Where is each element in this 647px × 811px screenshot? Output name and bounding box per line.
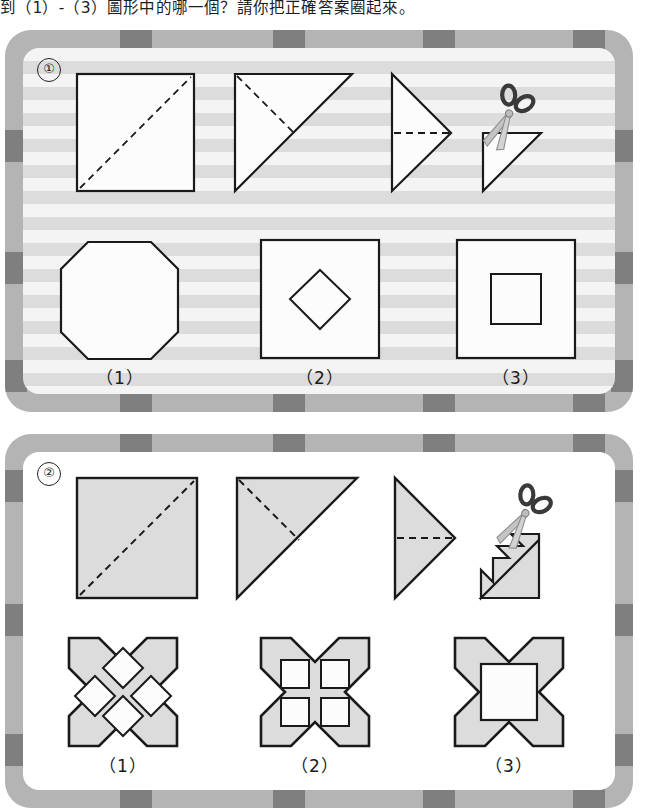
triangle-being-cut bbox=[474, 80, 541, 191]
option-lattice-four-squares[interactable] bbox=[261, 638, 369, 746]
panel-1-frame: ① bbox=[5, 30, 633, 412]
panel-1-option-1-label: （1） bbox=[80, 364, 160, 389]
option-lattice-one-square[interactable] bbox=[455, 638, 563, 746]
question-text: 到（1）-（3）圖形中的哪一個？請你把正確答案圈起來。 bbox=[0, 0, 647, 20]
triangle-with-fold bbox=[237, 478, 357, 598]
option-lattice-four-diamonds[interactable] bbox=[69, 638, 177, 746]
triangle-pointing-right-with-fold bbox=[392, 74, 451, 191]
square-with-diagonal-fold bbox=[77, 74, 194, 191]
triangle-pointing-right-with-fold bbox=[395, 478, 455, 598]
panel-1-option-3-label: （3） bbox=[476, 364, 556, 389]
panel-2-option-2-label: （2） bbox=[275, 752, 355, 777]
option-square-with-diamond-hole[interactable] bbox=[261, 240, 379, 358]
panel-1-option-2-label: （2） bbox=[280, 364, 360, 389]
panel-2-card: ② bbox=[23, 452, 615, 790]
square-with-diagonal-fold bbox=[77, 478, 197, 598]
option-octagon[interactable] bbox=[61, 242, 178, 359]
panel-1-diagram bbox=[23, 48, 615, 394]
triangle-being-cut-zigzag bbox=[481, 480, 557, 598]
option-square-with-square-hole[interactable] bbox=[457, 240, 575, 358]
panel-2-frame: ② bbox=[5, 434, 633, 808]
panel-2-option-1-label: （1） bbox=[83, 752, 163, 777]
panel-2-option-3-label: （3） bbox=[469, 752, 549, 777]
panel-2-diagram bbox=[23, 452, 615, 790]
triangle-with-fold bbox=[235, 74, 352, 191]
panel-1-card: ① bbox=[23, 48, 615, 394]
